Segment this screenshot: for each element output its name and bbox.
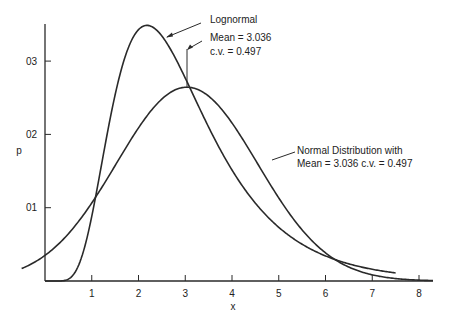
x-tick-label: 1 bbox=[89, 288, 95, 299]
x-tick-label: 7 bbox=[369, 288, 375, 299]
x-axis-label: x bbox=[231, 301, 236, 312]
normal-leader-line bbox=[272, 152, 295, 160]
y-tick-label: 03 bbox=[26, 56, 38, 67]
normal-annotation: Normal Distribution with Mean = 3.036 c.… bbox=[272, 145, 413, 169]
lognormal-annotation: Lognormal Mean = 3.036 c.v. = 0.497 bbox=[166, 14, 272, 87]
arrow-icon bbox=[166, 33, 173, 38]
x-ticks: 12345678 bbox=[89, 275, 422, 299]
x-tick-label: 2 bbox=[136, 288, 142, 299]
y-tick-label: 02 bbox=[26, 129, 38, 140]
normal-label-line1: Normal Distribution with bbox=[297, 145, 403, 156]
y-ticks: 010203 bbox=[26, 56, 51, 214]
lognormal-cv-label: c.v. = 0.497 bbox=[210, 46, 262, 57]
arrow-icon bbox=[187, 45, 193, 51]
x-tick-label: 5 bbox=[276, 288, 282, 299]
x-tick-label: 3 bbox=[182, 288, 188, 299]
lognormal-mean-label: Mean = 3.036 bbox=[210, 32, 272, 43]
normal-label-line2: Mean = 3.036 c.v. = 0.497 bbox=[297, 158, 413, 169]
y-axis-label: p bbox=[16, 145, 22, 156]
x-tick-label: 6 bbox=[323, 288, 329, 299]
y-tick-label: 01 bbox=[26, 202, 38, 213]
distribution-chart: 12345678 010203 x p Lognormal Mean = 3.0… bbox=[0, 0, 449, 325]
x-tick-label: 4 bbox=[229, 288, 235, 299]
lognormal-label: Lognormal bbox=[210, 14, 257, 25]
x-tick-label: 8 bbox=[416, 288, 422, 299]
